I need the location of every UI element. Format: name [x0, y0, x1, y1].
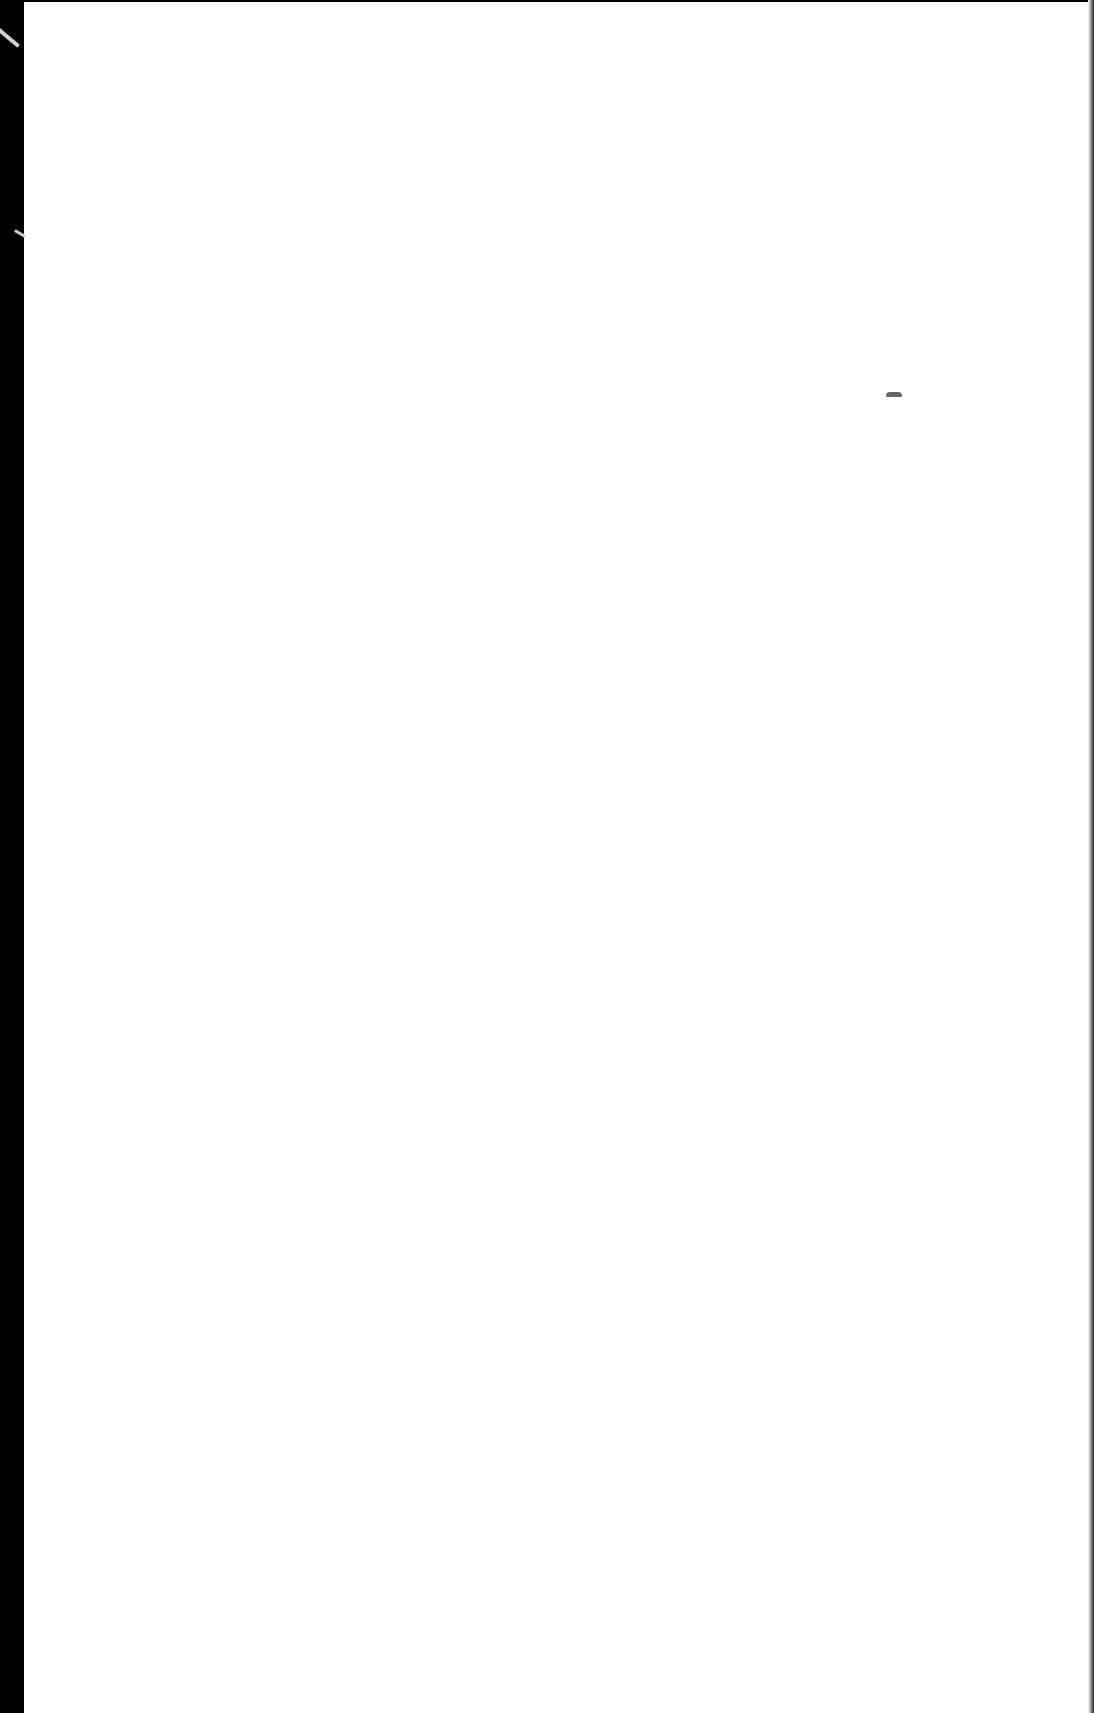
smudge-mark: [886, 392, 902, 397]
page-edge-shadow: [1088, 0, 1094, 1713]
scan-artifact: [0, 28, 20, 48]
blank-page: [24, 2, 1088, 1713]
